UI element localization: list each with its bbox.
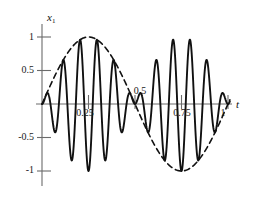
x-tick-label-1: 1 bbox=[221, 108, 226, 118]
y-tick-label-1: 1 bbox=[6, 32, 34, 42]
plot-canvas bbox=[0, 0, 262, 206]
y-axis-label-subscript: 1 bbox=[52, 17, 56, 25]
beat-oscillation-figure: x1 t 1 0.5 -0.5 -1 0.25 0.5 0.75 1 bbox=[0, 0, 262, 206]
y-tick-label-0-5: 0.5 bbox=[6, 65, 34, 75]
x-axis-label: t bbox=[236, 99, 239, 110]
y-tick-label-neg-1: -1 bbox=[2, 165, 34, 175]
x-tick-label-0-25: 0.25 bbox=[76, 108, 94, 118]
x-tick-label-0-75: 0.75 bbox=[173, 108, 191, 118]
y-tick-label-neg-0-5: -0.5 bbox=[2, 132, 34, 142]
y-axis-label: x1 bbox=[47, 12, 55, 23]
x-tick-label-0-5: 0.5 bbox=[134, 86, 147, 96]
